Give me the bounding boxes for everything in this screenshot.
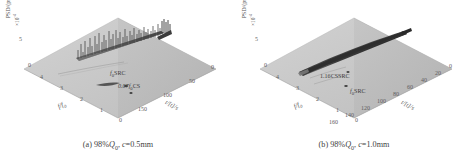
y-tick-a-50: 50 [189,78,195,84]
y-tick-a-0: 0 [211,64,214,70]
z-axis-label-a: PSD/(psi2/Hz) [3,0,11,30]
plot-a: ×10-4 PSD/(psi2/Hz) 5 0 4 3 2 1 0 f/f0 0… [0,0,236,128]
x-tick-b-4: 4 [276,74,279,80]
waterfall-surface-b [236,0,472,128]
x-tick-a-4: 4 [40,74,43,80]
y-tick-b-0: 0 [449,63,452,69]
figure-container: ×10-4 PSD/(psi2/Hz) 5 0 4 3 2 1 0 f/f0 0… [0,0,472,155]
x-tick-b-2: 2 [316,96,319,102]
panel-a: ×10-4 PSD/(psi2/Hz) 5 0 4 3 2 1 0 f/f0 0… [0,0,236,155]
y-tick-b-60: 60 [407,84,413,90]
z-axis-label-b: PSD/(psi2/Hz) [239,0,247,30]
y-tick-b-160: 160 [329,119,338,125]
x-tick-a-1: 1 [100,107,103,113]
x-tick-a-2: 2 [80,96,83,102]
y-tick-b-40: 40 [421,77,427,83]
y-tick-a-150: 150 [138,106,147,112]
plot-b: ×10-4 PSD/(psi2/Hz) 5 0 4 3 2 1 0 f/f0 0… [236,0,472,128]
x-tick-b-1: 1 [336,107,339,113]
x-tick-b-3: 3 [296,85,299,91]
annotation-a-f0srC: f0SRC [110,70,126,78]
annotation-b-f0src: f0SRC [350,88,366,96]
x-tick-a-3: 3 [60,85,63,91]
z-axis-exponent-b: ×10-4 [248,14,256,26]
y-tick-b-20: 20 [435,70,441,76]
z-tick-b-5: 5 [255,36,258,42]
z-tick-a-5: 5 [19,36,22,42]
x-tick-b-0: 0 [355,117,358,123]
waterfall-surface-a [0,0,236,128]
annotation-b-116cssrc: 1.16CSSRC [320,73,350,79]
y-tick-b-80: 80 [393,91,399,97]
caption-b: (b) 98%Q0, c=1.0mm [236,140,472,151]
y-tick-a-100: 100 [163,92,172,98]
annotation-a-007f0cs: 0.07f0CS [118,83,140,91]
panel-b: ×10-4 PSD/(psi2/Hz) 5 0 4 3 2 1 0 f/f0 0… [236,0,472,155]
caption-a: (a) 98%Q0, c=0.5mm [0,140,236,151]
x-tick-a-0: 0 [119,117,122,123]
y-tick-b-120: 120 [361,105,370,111]
z-tick-a-0: 0 [28,62,31,68]
z-tick-b-0: 0 [264,62,267,68]
y-tick-b-140: 140 [345,112,354,118]
y-tick-b-100: 100 [377,98,386,104]
z-axis-exponent-a: ×10-4 [12,14,20,26]
